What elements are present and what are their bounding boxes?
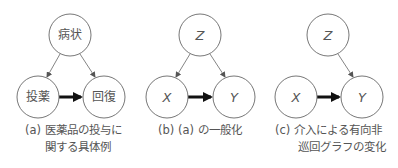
diagram-b: Z X Y [146, 14, 255, 118]
diagram-c: Z X Y [275, 14, 383, 118]
node-label: Y [358, 90, 367, 105]
caption-a: (a) 医薬品の投与に 関する具体例 [25, 122, 122, 156]
node-label: X [291, 90, 302, 105]
caption-line: 巡回グラフの変化 [275, 139, 386, 156]
edge-top-right [338, 54, 353, 77]
caption-line: (a) 医薬品の投与に [25, 122, 122, 139]
edge-top-right [80, 54, 95, 77]
caption-c: (c) 介入による有向非 巡回グラフの変化 [275, 122, 386, 156]
node-label: Y [230, 90, 239, 105]
edge-top-right [210, 54, 225, 77]
node-label: Z [195, 28, 206, 43]
caption-line: (c) 介入による有向非 [275, 122, 386, 139]
diagram-a: 病状 投薬 回復 [17, 14, 125, 118]
edge-top-left [47, 54, 60, 77]
node-label: 病状 [58, 27, 82, 42]
caption-line: 関する具体例 [25, 139, 122, 156]
node-label: X [162, 90, 173, 105]
node-label: 回復 [92, 89, 116, 104]
node-label: 投薬 [26, 89, 50, 104]
caption-b: (b) (a) の一般化 [158, 122, 242, 139]
node-label: Z [323, 28, 334, 43]
caption-line: (b) (a) の一般化 [158, 122, 242, 139]
edge-top-left [176, 54, 190, 77]
